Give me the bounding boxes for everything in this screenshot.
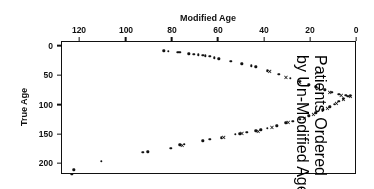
plot-frame: Patients Ordered by Un-Modified Age (61, 41, 356, 174)
x-axis-tick-label: 80 (167, 25, 176, 35)
x-axis-tick (125, 37, 126, 41)
data-point (275, 125, 278, 128)
data-point (334, 100, 340, 106)
x-axis-title: Modified Age (180, 13, 236, 23)
data-point (221, 134, 227, 140)
x-axis-tick-label: 60 (213, 25, 222, 35)
x-axis-tick-label: 20 (305, 25, 314, 35)
y-axis-tick-label: 0 (48, 41, 53, 51)
annotation-line-2: by Un-Modified Age (293, 55, 311, 189)
data-point (213, 56, 216, 59)
data-point (283, 74, 289, 80)
data-point (188, 52, 191, 55)
data-point (142, 151, 145, 154)
x-axis-tick (171, 37, 172, 41)
data-point (278, 73, 281, 76)
data-point (192, 53, 195, 56)
x-axis-tick-label: 120 (72, 25, 86, 35)
data-point (285, 119, 291, 125)
x-axis-tick (79, 37, 80, 41)
y-axis-tick-label: 200 (39, 158, 53, 168)
data-point (289, 77, 292, 80)
x-axis-tick (355, 37, 356, 41)
y-axis-tick (57, 133, 61, 134)
data-point (162, 49, 165, 52)
data-point (344, 94, 347, 97)
y-axis-tick-label: 50 (44, 70, 53, 80)
data-point (229, 60, 232, 63)
data-point (349, 95, 352, 98)
x-axis-tick-label: 40 (259, 25, 268, 35)
data-point (255, 66, 258, 69)
data-point (245, 131, 248, 134)
y-axis-tick (57, 74, 61, 75)
data-point (209, 138, 212, 141)
data-point (204, 55, 207, 58)
data-point (234, 133, 237, 136)
data-point (73, 169, 76, 172)
data-point (179, 51, 182, 54)
data-point (100, 160, 103, 163)
y-axis-tick-label: 100 (39, 100, 53, 110)
data-point (239, 130, 245, 136)
data-point (202, 139, 205, 142)
x-axis-tick (263, 37, 264, 41)
x-axis-tick-label: 100 (118, 25, 132, 35)
data-point (169, 147, 172, 150)
figure-root: Patients Ordered by Un-Modified Age 0204… (0, 0, 374, 189)
data-point (167, 50, 170, 53)
data-point (218, 58, 221, 61)
x-axis-tick-label: 0 (354, 25, 359, 35)
rotated-figure-canvas: Patients Ordered by Un-Modified Age 0204… (0, 0, 374, 189)
y-axis-tick (57, 45, 61, 46)
y-axis-tick (57, 163, 61, 164)
data-point (267, 68, 273, 74)
y-axis-title: True Age (19, 88, 29, 126)
x-axis-tick (217, 37, 218, 41)
x-axis-tick (309, 37, 310, 41)
data-point (179, 142, 185, 148)
y-axis-tick-label: 150 (39, 129, 53, 139)
data-point (146, 151, 149, 154)
plot-annotation: Patients Ordered by Un-Modified Age (293, 55, 329, 189)
data-point (209, 55, 212, 58)
data-point (241, 62, 244, 65)
y-axis-tick (57, 104, 61, 105)
data-point (338, 92, 344, 98)
data-point (197, 53, 200, 56)
annotation-line-1: Patients Ordered (311, 55, 329, 189)
data-point (250, 65, 253, 68)
data-point (70, 173, 73, 176)
data-point (269, 124, 275, 130)
data-point (255, 128, 261, 134)
